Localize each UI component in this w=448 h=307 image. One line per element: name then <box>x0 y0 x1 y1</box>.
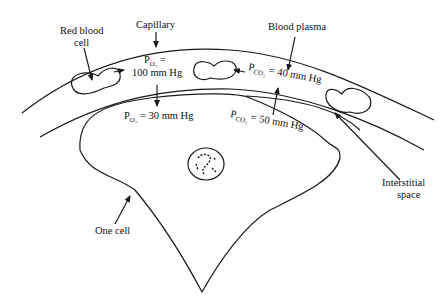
co2-diffusion-arrow <box>273 88 278 115</box>
label-interstitial: Interstitial <box>382 177 425 188</box>
cell-pointer-arrow <box>115 196 130 224</box>
capillary-inner-wall <box>40 89 424 150</box>
label-blood-plasma: Blood plasma <box>268 21 326 32</box>
label-interstitial-2: space <box>397 189 421 200</box>
red-blood-cell-left <box>72 68 121 94</box>
label-red-blood-cell-2: cell <box>74 37 89 48</box>
plasma-pointer-arrow <box>288 37 295 70</box>
po2-cell-label: PO₂ = 30 mm Hg <box>124 110 194 124</box>
label-one-cell: One cell <box>95 225 130 236</box>
pco2-cell-label: PCO₂ = 50 mm Hg <box>229 108 305 135</box>
gas-exchange-diagram: Capillary Red blood cell Blood plasma In… <box>0 0 448 307</box>
capillary-outer-wall <box>22 49 434 120</box>
po2-capillary-value: 100 mm Hg <box>132 67 183 78</box>
po2-capillary-label: PO₂ = <box>144 54 166 68</box>
nucleus-icon <box>188 148 224 180</box>
label-capillary: Capillary <box>136 19 176 30</box>
pco2-capillary-label: PCO₂ = 40 mm Hg <box>247 61 323 88</box>
red-blood-cell-middle <box>194 61 236 79</box>
label-red-blood-cell: Red blood <box>60 25 104 36</box>
